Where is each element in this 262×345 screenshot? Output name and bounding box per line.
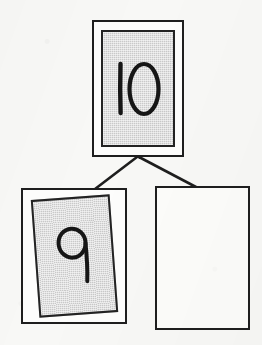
handwritten-10-glyph [112, 58, 164, 120]
tree-node-root[interactable]: 10 [92, 20, 184, 157]
tree-node-left-child-value-card: 9 [31, 194, 118, 317]
tree-node-root-value-card: 10 [101, 30, 175, 147]
tree-node-left-child[interactable]: 9 [21, 188, 127, 324]
diagram-canvas: 10 9 [0, 0, 262, 345]
edge-root-to-left-child [95, 157, 137, 189]
handwritten-9-glyph [50, 222, 99, 289]
tree-node-right-child[interactable] [155, 186, 250, 330]
edge-root-to-right-child [139, 157, 196, 187]
